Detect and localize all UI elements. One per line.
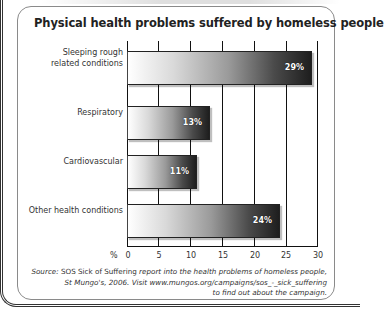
top-shadow (40, 0, 340, 4)
bar-value-label: 11% (170, 167, 189, 176)
tick-label: 0 (125, 251, 130, 260)
source-report-name: SOS Sick of Suffering (61, 267, 137, 276)
category-label-line: related conditions (51, 58, 123, 69)
tick-label: 15 (218, 251, 228, 260)
bar-value-label: 13% (183, 118, 202, 127)
category-label-sleeping-rough: Sleeping rough related conditions (51, 47, 123, 69)
chart-title: Physical health problems suffered by hom… (34, 16, 384, 30)
bar-value-label: 24% (253, 216, 272, 225)
plot-area: 29% 13% 11% 24% (127, 41, 318, 247)
bar-other: 24% (127, 204, 280, 238)
source-line-3: to find out about the campaign. (27, 288, 327, 299)
bar-sleeping-rough: 29% (127, 51, 312, 85)
axis-baseline (127, 246, 318, 247)
bar-value-label: 29% (285, 63, 304, 72)
gridline (317, 41, 318, 247)
category-label-other: Other health conditions (29, 205, 123, 216)
category-label-line: Sleeping rough (51, 47, 123, 58)
source-note: Source: SOS Sick of Suffering report int… (27, 267, 327, 299)
source-line-2: St Mungo's, 2006. Visit www.mungos.org/c… (27, 278, 327, 289)
source-prefix: Source: (31, 267, 61, 276)
tick-label: 30 (313, 251, 323, 260)
tick-label: 20 (250, 251, 260, 260)
bar-cardiovascular: 11% (127, 155, 197, 189)
source-line-1: Source: SOS Sick of Suffering report int… (27, 267, 327, 278)
tick-label: 10 (186, 251, 196, 260)
source-line1-rest: report into the health problems of homel… (137, 267, 327, 276)
category-label-respiratory: Respiratory (77, 107, 123, 118)
axis-unit-label: % (110, 251, 118, 260)
bar-respiratory: 13% (127, 106, 210, 140)
tick-label: 5 (156, 251, 161, 260)
category-label-cardiovascular: Cardiovascular (63, 156, 123, 167)
tick-label: 25 (281, 251, 291, 260)
